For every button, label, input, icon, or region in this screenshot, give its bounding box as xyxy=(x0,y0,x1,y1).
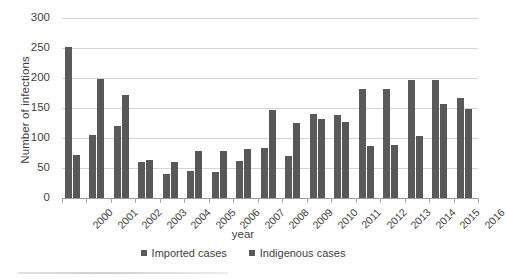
x-axis-tickmark xyxy=(86,198,87,203)
x-axis-tickmark xyxy=(233,198,234,203)
bar-indigenous[interactable] xyxy=(220,151,227,198)
x-axis-tickmark xyxy=(184,198,185,203)
bar-group xyxy=(86,18,110,198)
bar-imported[interactable] xyxy=(163,174,170,198)
x-axis-tickmark xyxy=(429,198,430,203)
bar-indigenous[interactable] xyxy=(269,110,276,198)
bar-group xyxy=(160,18,184,198)
bar-group xyxy=(135,18,159,198)
plot-area: 050100150200250300 200020012002200320042… xyxy=(62,18,478,198)
x-axis-tickmark xyxy=(356,198,357,203)
bar-imported[interactable] xyxy=(261,148,268,198)
bar-indigenous[interactable] xyxy=(171,162,178,198)
x-axis-tickmark xyxy=(331,198,332,203)
bar-indigenous[interactable] xyxy=(318,119,325,198)
y-axis-tick-label: 150 xyxy=(0,102,50,114)
bar-imported[interactable] xyxy=(432,80,439,198)
bar-indigenous[interactable] xyxy=(97,79,104,198)
legend-label: Imported cases xyxy=(152,247,227,259)
footer-rule xyxy=(18,272,228,274)
bar-indigenous[interactable] xyxy=(416,136,423,198)
bar-group xyxy=(429,18,453,198)
bar-group xyxy=(307,18,331,198)
bar-imported[interactable] xyxy=(408,80,415,198)
x-axis-tickmark xyxy=(258,198,259,203)
legend-item-imported[interactable]: Imported cases xyxy=(141,247,227,259)
bar-imported[interactable] xyxy=(114,126,121,198)
x-axis-tickmark xyxy=(380,198,381,203)
bar-group xyxy=(62,18,86,198)
bar-imported[interactable] xyxy=(457,98,464,198)
y-axis-tick-label: 100 xyxy=(0,132,50,144)
bar-indigenous[interactable] xyxy=(73,155,80,198)
bar-imported[interactable] xyxy=(383,89,390,198)
legend-swatch-icon xyxy=(141,250,147,256)
bar-group xyxy=(282,18,306,198)
x-axis-tickmark xyxy=(478,198,479,203)
y-axis-tick-label: 200 xyxy=(0,72,50,84)
bar-imported[interactable] xyxy=(310,114,317,198)
x-axis-title: year xyxy=(0,228,486,240)
bar-imported[interactable] xyxy=(138,162,145,198)
x-axis-tickmark xyxy=(209,198,210,203)
bar-indigenous[interactable] xyxy=(367,146,374,198)
bar-group xyxy=(356,18,380,198)
chart-legend: Imported casesIndigenous cases xyxy=(0,247,486,259)
bar-indigenous[interactable] xyxy=(244,149,251,198)
bar-group xyxy=(184,18,208,198)
bar-indigenous[interactable] xyxy=(122,95,129,198)
bar-imported[interactable] xyxy=(359,89,366,198)
bar-group xyxy=(405,18,429,198)
bar-group xyxy=(380,18,404,198)
x-axis-tickmark xyxy=(111,198,112,203)
bar-group xyxy=(454,18,478,198)
bar-indigenous[interactable] xyxy=(146,160,153,198)
bar-imported[interactable] xyxy=(285,156,292,198)
bar-imported[interactable] xyxy=(334,115,341,198)
bar-imported[interactable] xyxy=(89,135,96,198)
bar-groups xyxy=(62,18,478,198)
legend-swatch-icon xyxy=(249,250,255,256)
x-axis-label: 2011 xyxy=(359,206,383,230)
y-axis-tick-label: 250 xyxy=(0,42,50,54)
x-axis-tickmark xyxy=(135,198,136,203)
x-axis-tickmark xyxy=(307,198,308,203)
bar-indigenous[interactable] xyxy=(195,151,202,198)
bar-imported[interactable] xyxy=(187,171,194,198)
x-axis-tickmark xyxy=(454,198,455,203)
bar-group xyxy=(209,18,233,198)
x-axis-tickmark xyxy=(160,198,161,203)
bar-indigenous[interactable] xyxy=(440,104,447,198)
legend-label: Indigenous cases xyxy=(260,247,346,259)
x-axis-tickmark xyxy=(282,198,283,203)
x-axis-tickmark xyxy=(62,198,63,203)
bar-indigenous[interactable] xyxy=(342,122,349,198)
y-axis-tick-label: 300 xyxy=(0,12,50,24)
bar-imported[interactable] xyxy=(212,172,219,198)
bar-group xyxy=(111,18,135,198)
bar-imported[interactable] xyxy=(236,161,243,198)
y-axis-tick-label: 50 xyxy=(0,162,50,174)
y-axis-tick-label: 0 xyxy=(0,192,50,204)
bar-imported[interactable] xyxy=(65,47,72,198)
x-axis-line xyxy=(62,198,478,199)
bar-indigenous[interactable] xyxy=(465,109,472,198)
bar-indigenous[interactable] xyxy=(391,145,398,198)
bar-group xyxy=(331,18,355,198)
bar-indigenous[interactable] xyxy=(293,123,300,198)
bar-group xyxy=(258,18,282,198)
bar-group xyxy=(233,18,257,198)
x-axis-tickmark xyxy=(405,198,406,203)
legend-item-indigenous[interactable]: Indigenous cases xyxy=(249,247,346,259)
